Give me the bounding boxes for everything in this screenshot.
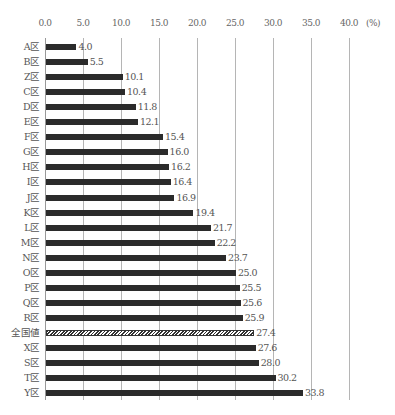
x-tick-label: 30.0 — [264, 18, 282, 28]
value-label: 25.5 — [242, 282, 261, 294]
x-tick-label: 25.0 — [226, 18, 244, 28]
data-bar — [46, 225, 211, 231]
category-label: J区 — [0, 192, 40, 204]
x-tick-label: 40.0 — [340, 18, 358, 28]
data-bar — [46, 390, 303, 396]
category-label: 全国値 — [0, 327, 40, 339]
value-label: 16.0 — [170, 146, 189, 158]
data-bar — [46, 149, 168, 155]
category-label: T区 — [0, 372, 40, 384]
value-label: 25.0 — [238, 267, 257, 279]
category-label: R区 — [0, 312, 40, 324]
category-label: L区 — [0, 222, 40, 234]
category-label: X区 — [0, 342, 40, 354]
data-bar — [46, 74, 123, 80]
x-tick-label: 5.0 — [77, 18, 90, 28]
value-label: 16.4 — [173, 176, 192, 188]
data-bar — [46, 255, 226, 261]
value-label: 22.2 — [217, 237, 236, 249]
category-label: H区 — [0, 161, 40, 173]
category-label: E区 — [0, 116, 40, 128]
value-label: 21.7 — [213, 222, 232, 234]
data-bar — [46, 240, 215, 246]
x-tick-label: 0.0 — [39, 18, 52, 28]
value-label: 16.9 — [176, 192, 195, 204]
value-label: 25.9 — [245, 312, 264, 324]
value-label: 16.2 — [171, 161, 190, 173]
category-label: B区 — [0, 56, 40, 68]
value-label: 23.7 — [228, 252, 247, 264]
data-bar — [46, 315, 243, 321]
value-label: 27.4 — [256, 327, 275, 339]
value-label: 25.6 — [243, 297, 262, 309]
category-label: A区 — [0, 41, 40, 53]
data-bar — [46, 360, 259, 366]
x-tick-label: 20.0 — [188, 18, 206, 28]
national-value-bar — [46, 330, 254, 336]
data-bar — [46, 59, 88, 65]
data-bar — [46, 89, 125, 95]
unit-label: (%) — [366, 18, 380, 28]
value-label: 10.1 — [125, 71, 144, 83]
data-bar — [46, 210, 193, 216]
horizontal-bar-chart: 0.05.010.015.020.025.030.035.040.0(%)A区4… — [0, 0, 395, 415]
value-label: 30.2 — [278, 372, 297, 384]
data-bar — [46, 104, 136, 110]
value-label: 27.6 — [258, 342, 277, 354]
data-bar — [46, 300, 241, 306]
category-label: Q区 — [0, 297, 40, 309]
category-label: D区 — [0, 101, 40, 113]
category-label: K区 — [0, 207, 40, 219]
value-label: 15.4 — [165, 131, 184, 143]
data-bar — [46, 134, 163, 140]
data-bar — [46, 270, 236, 276]
data-bar — [46, 375, 276, 381]
value-label: 11.8 — [138, 101, 157, 113]
value-label: 28.0 — [261, 357, 280, 369]
category-label: M区 — [0, 237, 40, 249]
data-bar — [46, 119, 138, 125]
x-tick-label: 10.0 — [112, 18, 130, 28]
value-label: 33.8 — [305, 387, 324, 399]
category-label: O区 — [0, 267, 40, 279]
data-bar — [46, 164, 169, 170]
category-label: Y区 — [0, 387, 40, 399]
category-label: S区 — [0, 357, 40, 369]
category-label: F区 — [0, 131, 40, 143]
value-label: 4.0 — [78, 41, 92, 53]
gridline — [349, 38, 350, 400]
value-label: 10.4 — [127, 86, 146, 98]
value-label: 5.5 — [90, 56, 104, 68]
data-bar — [46, 285, 240, 291]
category-label: N区 — [0, 252, 40, 264]
gridline — [311, 38, 312, 400]
data-bar — [46, 44, 76, 50]
data-bar — [46, 345, 256, 351]
category-label: C区 — [0, 86, 40, 98]
value-label: 12.1 — [140, 116, 159, 128]
category-label: Z区 — [0, 71, 40, 83]
data-bar — [46, 179, 171, 185]
data-bar — [46, 195, 174, 201]
category-label: P区 — [0, 282, 40, 294]
x-tick-label: 15.0 — [150, 18, 168, 28]
category-label: G区 — [0, 146, 40, 158]
category-label: I区 — [0, 176, 40, 188]
value-label: 19.4 — [195, 207, 214, 219]
x-tick-label: 35.0 — [302, 18, 320, 28]
